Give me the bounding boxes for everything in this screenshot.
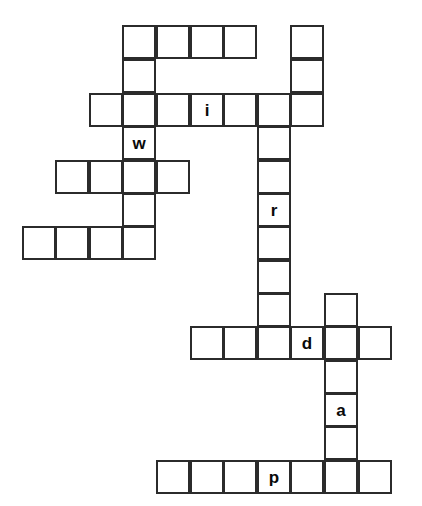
crossword-cell[interactable]: [324, 426, 358, 460]
crossword-cell[interactable]: [89, 226, 123, 260]
crossword-cell-filled[interactable]: a: [324, 393, 358, 427]
crossword-cell[interactable]: [223, 93, 257, 127]
crossword-cell-filled[interactable]: d: [290, 326, 324, 360]
crossword-cell[interactable]: [324, 326, 358, 360]
crossword-cell-filled[interactable]: i: [190, 93, 224, 127]
crossword-cell-letter: w: [132, 135, 145, 152]
crossword-cell[interactable]: [324, 293, 358, 327]
crossword-cell[interactable]: [358, 460, 392, 494]
crossword-grid: iwrdap: [0, 0, 422, 506]
crossword-cell[interactable]: [89, 160, 123, 194]
crossword-cell[interactable]: [257, 293, 291, 327]
crossword-cell-letter: r: [271, 202, 278, 219]
crossword-cell[interactable]: [257, 260, 291, 294]
crossword-cell[interactable]: [290, 460, 324, 494]
crossword-cell-filled[interactable]: w: [122, 126, 156, 160]
crossword-cell[interactable]: [257, 226, 291, 260]
crossword-cell[interactable]: [324, 460, 358, 494]
crossword-cell-letter: p: [269, 469, 279, 486]
crossword-cell-letter: i: [205, 102, 210, 119]
crossword-cell[interactable]: [122, 226, 156, 260]
crossword-cell[interactable]: [358, 326, 392, 360]
crossword-cell[interactable]: [257, 93, 291, 127]
crossword-cell[interactable]: [22, 226, 56, 260]
crossword-cell[interactable]: [257, 126, 291, 160]
crossword-cell[interactable]: [290, 59, 324, 93]
crossword-cell[interactable]: [324, 360, 358, 394]
crossword-cell[interactable]: [122, 59, 156, 93]
crossword-cell[interactable]: [122, 160, 156, 194]
crossword-cell[interactable]: [89, 93, 123, 127]
crossword-cell[interactable]: [223, 460, 257, 494]
crossword-cell[interactable]: [290, 93, 324, 127]
crossword-cell[interactable]: [257, 326, 291, 360]
crossword-cell[interactable]: [156, 93, 190, 127]
crossword-cell[interactable]: [190, 326, 224, 360]
crossword-cell[interactable]: [122, 25, 156, 59]
crossword-cell[interactable]: [156, 460, 190, 494]
crossword-cell[interactable]: [290, 25, 324, 59]
crossword-cell[interactable]: [190, 460, 224, 494]
crossword-cell[interactable]: [122, 93, 156, 127]
crossword-cell-filled[interactable]: p: [257, 460, 291, 494]
crossword-cell-filled[interactable]: r: [257, 193, 291, 227]
crossword-cell-letter: d: [302, 335, 312, 352]
crossword-cell[interactable]: [257, 160, 291, 194]
crossword-cell-letter: a: [336, 402, 345, 419]
crossword-cell[interactable]: [223, 326, 257, 360]
crossword-cell[interactable]: [122, 193, 156, 227]
crossword-cell[interactable]: [190, 25, 224, 59]
crossword-cell[interactable]: [55, 160, 89, 194]
crossword-cell[interactable]: [156, 25, 190, 59]
crossword-cell[interactable]: [223, 25, 257, 59]
crossword-cell[interactable]: [55, 226, 89, 260]
crossword-cell[interactable]: [156, 160, 190, 194]
